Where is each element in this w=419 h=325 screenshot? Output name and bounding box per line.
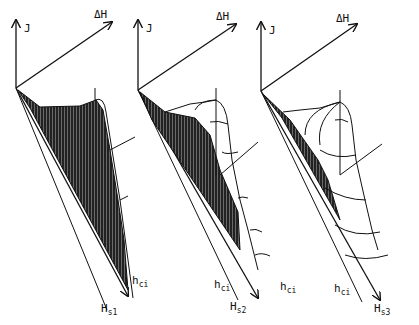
panel-1: J ΔH hci Hs1	[16, 8, 148, 317]
hci-label: hci	[132, 274, 148, 289]
j-axis-label: J	[24, 22, 31, 35]
hci-label: hci	[334, 282, 350, 297]
panel-3: J ΔH hci Hs3	[261, 12, 390, 317]
delta-h-label: ΔH	[94, 8, 107, 21]
hatched-surface	[18, 90, 128, 290]
delta-h-axis	[138, 24, 236, 90]
envelope-curve	[283, 102, 378, 250]
hs3-label: Hs3	[374, 302, 390, 317]
delta-h-label: ΔH	[216, 10, 229, 23]
diagram-figure: J ΔH hci Hs1 J ΔH hci hci Hs2	[0, 0, 419, 325]
delta-h-label: ΔH	[336, 12, 349, 25]
hci-label: hci	[214, 278, 230, 293]
j-axis-label: J	[146, 22, 153, 35]
hs1-label: Hs1	[101, 302, 117, 317]
j-axis-label: J	[269, 24, 276, 37]
hs-axis	[261, 91, 362, 302]
hci-axis	[261, 91, 380, 300]
hci-label-outer: hci	[280, 280, 296, 295]
hs2-label: Hs2	[230, 300, 246, 315]
panel-2: J ΔH hci hci Hs2	[138, 10, 296, 315]
